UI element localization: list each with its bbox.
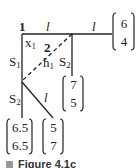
s2-lower-label: S2 [9,92,21,109]
payoff-top: 6.5 [12,120,28,135]
s2-lower-sub: 2 [16,97,21,107]
edge-label-top-left: l [46,20,50,33]
h1-sub: 1 [50,61,55,71]
caption-square-icon [6,161,13,168]
payoff-bottom: 6.5 [12,138,28,153]
payoff-vector-bottom-left: 6.5 6.5 [7,119,33,154]
payoff-bottom: 5 [70,95,77,110]
x1-sub: 1 [32,41,37,51]
payoff-bottom: 7 [50,138,57,153]
payoff-vector-top-right: 6 4 [114,14,134,50]
edge-label-diagonal: l [44,91,48,104]
s1-sub: 1 [16,60,21,70]
payoff-top: 6 [121,16,128,31]
payoff-top: 5 [50,120,57,135]
node-2-label: 2 [44,41,51,54]
figure-caption: Figure 4.1c [6,158,76,168]
s2-upper-label: S2 [59,55,71,72]
x1-label: x1 [25,36,36,53]
diagonal-branch-line [22,82,53,118]
payoff-bottom: 4 [121,34,128,49]
node-1-label: 1 [19,20,26,33]
payoff-top: 7 [70,77,77,92]
s2-upper-sub: 2 [66,60,71,70]
payoff-vector-bottom-center: 5 7 [44,119,63,154]
edge-label-top-right: l [92,20,96,33]
s1-label: S1 [9,55,21,72]
payoff-vector-middle: 7 5 [64,76,83,111]
caption-text: Figure 4.1c [18,158,76,168]
h1-label: h1 [43,56,54,73]
